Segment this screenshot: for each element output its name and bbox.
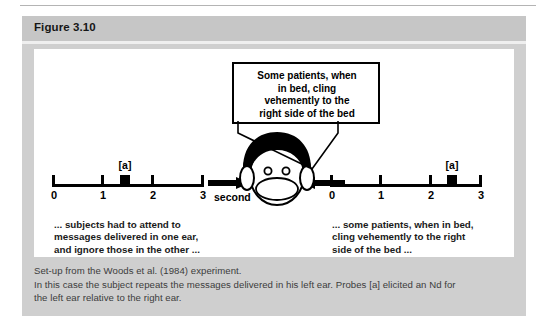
scale-left-tick-3 [201, 175, 204, 185]
scale-right-tick-label-1: 1 [378, 189, 384, 201]
scale-left-tick-label-2: 2 [150, 189, 156, 201]
figure-artwork-canvas: 0 1 2 3 [a] ... subjects had to attend t… [34, 49, 514, 257]
callout-text: Some patients, when in bed, cling veheme… [240, 70, 374, 120]
figure-header-bar: Figure 3.10 [22, 16, 526, 41]
scale-right-tick-label-3: 3 [478, 189, 484, 201]
scale-right-probe-marker [447, 175, 457, 186]
scale-left-probe-marker [120, 175, 130, 186]
scale-right-tick-3 [479, 175, 482, 185]
figure-caption-line-0: Set-up from the Woods et al. (1984) expe… [34, 264, 520, 278]
figure-panel: Figure 3.10 0 1 2 3 [a] ... subjects had… [22, 16, 526, 316]
scale-right-caption-line-1: cling vehemently to the right [332, 231, 522, 243]
scale-left-probe-label: [a] [119, 159, 132, 171]
callout-line-0: Some patients, when [240, 70, 374, 83]
figure-caption: Set-up from the Woods et al. (1984) expe… [34, 264, 520, 305]
scale-left-tick-label-1: 1 [100, 189, 106, 201]
top-hairline-rule [20, 5, 536, 6]
scale-left-tick-label-3: 3 [200, 189, 206, 201]
scale-left: 0 1 2 3 [a] [52, 167, 204, 213]
scale-left-tick-label-0: 0 [51, 189, 57, 201]
figure-number-label: Figure 3.10 [34, 21, 96, 33]
callout-pointer-tail [224, 119, 344, 179]
figure-caption-line-2: the left ear relative to the right ear. [34, 291, 520, 305]
scale-left-caption-line-1: messages delivered in one ear, [54, 231, 244, 243]
scale-left-tick-2 [151, 175, 154, 185]
scale-right-tick-label-0: 0 [329, 189, 335, 201]
figure-caption-line-1: In this case the subject repeats the mes… [34, 278, 520, 292]
scale-right-tick-2 [429, 175, 432, 185]
scale-right-tick-label-2: 2 [428, 189, 434, 201]
scale-left-caption-line-2: and ignore those in the other ... [54, 244, 244, 256]
callout-box: Some patients, when in bed, cling veheme… [232, 62, 380, 124]
scale-right-probe-label: [a] [446, 159, 459, 171]
scale-left-tick-1 [101, 175, 104, 185]
scale-right-caption: ... some patients, when in bed, cling ve… [332, 219, 522, 256]
scale-right-axis [330, 184, 482, 187]
scale-left-tick-0 [52, 175, 55, 185]
header-separator [22, 41, 526, 44]
callout-line-2: vehemently to the [240, 95, 374, 108]
scale-right-tick-1 [379, 175, 382, 185]
scale-right: 0 1 2 3 [a] [330, 167, 482, 213]
scale-left-caption-line-0: ... subjects had to attend to [54, 219, 244, 231]
scale-left-caption: ... subjects had to attend to messages d… [54, 219, 244, 256]
scale-right-caption-line-2: side of the bed ... [332, 244, 522, 256]
callout-line-1: in bed, cling [240, 83, 374, 96]
scale-right-caption-line-0: ... some patients, when in bed, [332, 219, 522, 231]
